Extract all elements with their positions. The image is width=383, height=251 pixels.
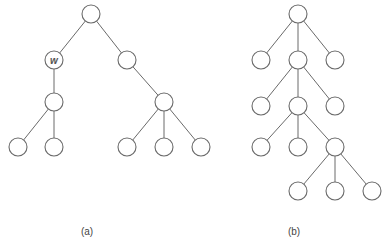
tree-edge xyxy=(133,67,158,95)
tree-edge xyxy=(133,109,159,140)
tree-node xyxy=(326,97,344,115)
tree-node xyxy=(326,138,344,156)
tree-edge xyxy=(60,21,86,53)
tree-edge xyxy=(267,113,292,141)
tree-edge xyxy=(97,21,122,53)
tree-node xyxy=(289,138,307,156)
tree-node xyxy=(118,138,136,156)
tree-node xyxy=(252,97,270,115)
tree-node xyxy=(252,138,270,156)
tree-node xyxy=(155,138,173,156)
tree-edge xyxy=(267,67,293,99)
caption-b: (b) xyxy=(288,226,300,237)
tree-node xyxy=(289,97,307,115)
tree-node xyxy=(192,138,210,156)
tree-edge xyxy=(170,109,196,140)
tree-node xyxy=(289,182,307,200)
tree-edge xyxy=(267,21,293,53)
tree-node xyxy=(326,51,344,69)
tree-edge xyxy=(304,154,329,184)
tree-node xyxy=(45,93,63,111)
tree-node xyxy=(45,138,63,156)
tree-node xyxy=(363,182,381,200)
tree-node xyxy=(118,51,136,69)
tree-edge xyxy=(304,21,330,53)
tree-edge xyxy=(304,67,330,99)
tree-diagram: w xyxy=(0,0,383,251)
tree-a: w xyxy=(9,5,210,156)
tree-node xyxy=(289,5,307,23)
node-label: w xyxy=(50,55,59,66)
tree-node xyxy=(326,182,344,200)
tree-edge xyxy=(304,113,329,141)
tree-node xyxy=(82,5,100,23)
tree-edge xyxy=(341,154,366,184)
tree-node xyxy=(252,51,270,69)
caption-a: (a) xyxy=(81,226,93,237)
tree-node xyxy=(9,138,27,156)
tree-b xyxy=(252,5,381,200)
tree-node xyxy=(155,93,173,111)
tree-node xyxy=(289,51,307,69)
tree-edge xyxy=(24,109,49,140)
